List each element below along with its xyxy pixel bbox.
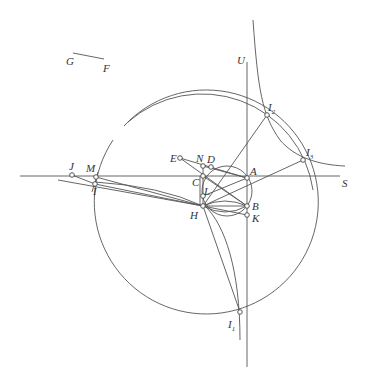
label-d: D bbox=[206, 153, 215, 165]
label-f: F bbox=[102, 62, 110, 74]
point-c bbox=[201, 174, 206, 179]
line-i-h bbox=[95, 184, 203, 206]
hyperbola-curve bbox=[253, 20, 345, 166]
label-i1: I1 bbox=[227, 318, 235, 333]
label-a: A bbox=[249, 165, 257, 177]
label-k: K bbox=[251, 212, 260, 224]
point-k bbox=[245, 213, 250, 218]
point-i1 bbox=[238, 310, 243, 315]
point-n bbox=[201, 164, 206, 169]
point-j bbox=[70, 173, 75, 178]
point-a bbox=[245, 176, 250, 181]
label-n: N bbox=[195, 152, 204, 164]
label-u: U bbox=[237, 54, 246, 66]
label-c: C bbox=[192, 176, 200, 188]
point-b bbox=[245, 204, 250, 209]
point-d bbox=[209, 165, 214, 170]
label-e: E bbox=[169, 152, 177, 164]
line-h-i1 bbox=[203, 206, 240, 312]
label-j: J bbox=[69, 160, 75, 172]
geometry-diagram: G F U S A B K C D N E L H I J M I1 I2 I3 bbox=[0, 0, 366, 382]
label-l: L bbox=[203, 185, 210, 197]
point-i2 bbox=[265, 113, 270, 118]
point-i3 bbox=[301, 158, 306, 163]
point-h bbox=[201, 204, 206, 209]
segment-gf bbox=[73, 53, 104, 59]
label-b: B bbox=[252, 200, 259, 212]
label-m: M bbox=[85, 162, 96, 174]
line-j-h bbox=[58, 180, 203, 206]
label-s: S bbox=[342, 177, 348, 189]
point-e bbox=[178, 156, 183, 161]
label-h: H bbox=[189, 209, 199, 221]
point-m bbox=[94, 175, 99, 180]
line-m-h bbox=[96, 177, 203, 206]
label-g: G bbox=[66, 55, 74, 67]
